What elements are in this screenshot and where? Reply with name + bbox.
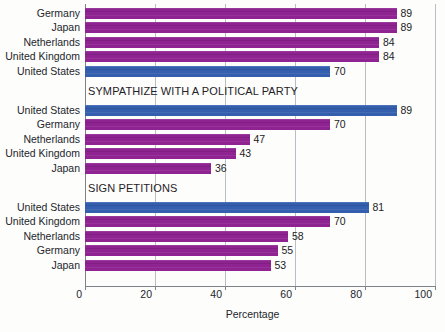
bar: [85, 216, 330, 227]
tick-label-0: 0: [76, 288, 85, 300]
tick-label-20: 20: [140, 288, 155, 300]
category-label: Germany: [0, 244, 80, 256]
category-label: Germany: [0, 118, 80, 130]
bar: [85, 37, 379, 48]
bar-row: 70: [85, 216, 435, 227]
x-axis-title-text: Percentage: [226, 308, 280, 320]
bar: [85, 163, 211, 174]
bar-value-label: 84: [383, 50, 395, 62]
category-label: United States: [0, 104, 80, 116]
tick-mark-20: [155, 286, 156, 290]
bar-value-label: 55: [282, 244, 294, 256]
bar-value-label: 36: [215, 162, 227, 174]
category-label: Germany: [0, 7, 80, 19]
bar-row: 70: [85, 119, 435, 130]
bar: [85, 8, 397, 19]
group-caption-2: SIGN PETITIONS: [88, 182, 177, 194]
bar-row: 53: [85, 260, 435, 271]
bar: [85, 105, 397, 116]
bar: [85, 51, 379, 62]
category-label: United Kingdom: [0, 147, 80, 159]
bar-row: 47: [85, 134, 435, 145]
bar: [85, 260, 271, 271]
tick-label-40: 40: [210, 288, 225, 300]
category-label: Japan: [0, 162, 80, 174]
gridline-100: [435, 4, 436, 286]
bar: [85, 245, 278, 256]
tick-mark-60: [295, 286, 296, 290]
bar-row: 89: [85, 22, 435, 33]
category-label: United States: [0, 201, 80, 213]
bar: [85, 134, 250, 145]
bar-value-label: 70: [334, 215, 346, 227]
bar-row: 55: [85, 245, 435, 256]
bar-value-label: 89: [401, 21, 413, 33]
category-label: United Kingdom: [0, 215, 80, 227]
category-label: United Kingdom: [0, 50, 80, 62]
tick-label-80: 80: [350, 288, 365, 300]
bar-chart: GermanyJapanNetherlandsUnited KingdomUni…: [0, 0, 445, 332]
bar-row: 89: [85, 8, 435, 19]
category-label: Netherlands: [0, 230, 80, 242]
bar: [85, 66, 330, 77]
bar-row: 43: [85, 148, 435, 159]
bar-value-label: 84: [383, 36, 395, 48]
tick-mark-40: [225, 286, 226, 290]
bar-row: 81: [85, 202, 435, 213]
bar-value-label: 70: [334, 118, 346, 130]
category-label: Japan: [0, 259, 80, 271]
category-label-column: GermanyJapanNetherlandsUnited KingdomUni…: [0, 0, 80, 286]
x-axis-title: Percentage: [0, 308, 445, 320]
category-label: United States: [0, 65, 80, 77]
x-axis-line: [85, 286, 436, 287]
category-label: Netherlands: [0, 133, 80, 145]
bar-value-label: 89: [401, 104, 413, 116]
bar-value-label: 53: [275, 259, 287, 271]
bar-row: 84: [85, 51, 435, 62]
bar-value-label: 89: [401, 7, 413, 19]
bar-row: 89: [85, 105, 435, 116]
tick-label-100: 100: [414, 288, 435, 300]
bar-value-label: 58: [292, 230, 304, 242]
bar-value-label: 47: [254, 133, 266, 145]
bar: [85, 119, 330, 130]
bar-value-label: 70: [334, 65, 346, 77]
bar: [85, 231, 288, 242]
category-label: Netherlands: [0, 36, 80, 48]
bar-value-label: 43: [240, 147, 252, 159]
bar-value-label: 81: [373, 201, 385, 213]
tick-mark-80: [365, 286, 366, 290]
bar-row: 36: [85, 163, 435, 174]
bar: [85, 202, 369, 213]
tick-label-60: 60: [280, 288, 295, 300]
bar-row: 70: [85, 66, 435, 77]
group-caption-1: SYMPATHIZE WITH A POLITICAL PARTY: [88, 85, 298, 97]
category-label: Japan: [0, 21, 80, 33]
bar: [85, 148, 236, 159]
bar-row: 84: [85, 37, 435, 48]
tick-mark-100: [435, 286, 436, 290]
tick-mark-0: [85, 286, 86, 290]
bar: [85, 22, 397, 33]
bar-row: 58: [85, 231, 435, 242]
plot-area: 898984847089704743368170585553: [85, 0, 435, 286]
